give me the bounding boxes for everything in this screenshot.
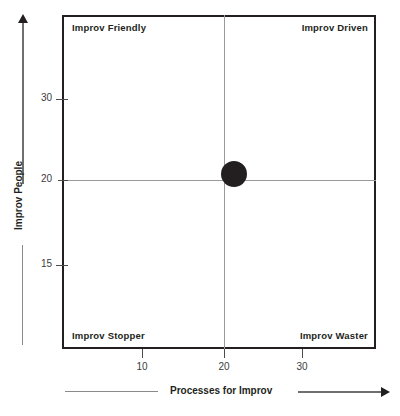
quadrant-label-bottom-left: Improv Stopper xyxy=(72,330,145,341)
y-tick-mark-30 xyxy=(56,99,68,100)
plot-area xyxy=(62,15,376,349)
y-tick-mark-20 xyxy=(58,180,68,181)
quadrant-label-top-left: Improv Friendly xyxy=(72,22,146,33)
x-tick-mark-10 xyxy=(142,349,143,358)
x-axis-arrow-icon xyxy=(298,391,382,393)
x-axis-title: Processes for Improv xyxy=(170,385,272,396)
quadrant-label-top-right: Improv Driven xyxy=(302,22,368,33)
x-tick-label-10: 10 xyxy=(122,361,162,372)
x-tick-label-20: 20 xyxy=(204,361,244,372)
x-tick-label-30: 30 xyxy=(282,361,322,372)
data-point-marker[interactable] xyxy=(221,161,247,187)
y-tick-label-30: 30 xyxy=(12,92,52,103)
y-tick-label-15: 15 xyxy=(12,258,52,269)
quadrant-label-bottom-right: Improv Waster xyxy=(300,330,368,341)
quadrant-scatter-chart: Improv Friendly Improv Driven Improv Sto… xyxy=(0,0,400,416)
quadrant-divider-horizontal xyxy=(62,180,376,181)
y-axis-title: Improv People xyxy=(13,136,24,256)
x-tick-mark-30 xyxy=(302,349,303,358)
y-tick-mark-15 xyxy=(56,265,68,266)
y-axis-tail-line xyxy=(22,245,23,345)
x-tick-mark-20 xyxy=(224,349,225,358)
x-axis-tail-line xyxy=(65,391,158,392)
